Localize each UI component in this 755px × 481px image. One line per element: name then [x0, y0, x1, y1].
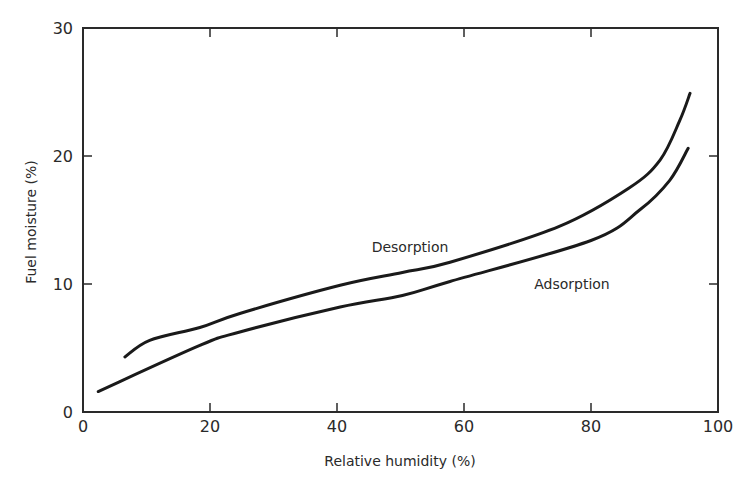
adsorption-label: Adsorption [534, 276, 610, 292]
tick-labels: 0204060801000102030 [53, 19, 734, 436]
y-tick-label: 0 [63, 403, 73, 422]
y-tick-label: 10 [53, 275, 73, 294]
x-tick-label: 100 [703, 417, 734, 436]
adsorption-curve [98, 148, 688, 391]
desorption-label: Desorption [372, 239, 449, 255]
x-tick-label: 0 [78, 417, 88, 436]
y-axis-title: Fuel moisture (%) [23, 160, 39, 284]
y-tick-label: 30 [53, 19, 73, 38]
x-tick-label: 20 [200, 417, 220, 436]
x-axis-title: Relative humidity (%) [324, 453, 475, 469]
chart: 0204060801000102030 DesorptionAdsorption… [0, 0, 755, 481]
x-tick-label: 40 [327, 417, 347, 436]
x-tick-label: 80 [581, 417, 601, 436]
y-tick-label: 20 [53, 147, 73, 166]
x-tick-label: 60 [454, 417, 474, 436]
desorption-curve [125, 93, 690, 357]
